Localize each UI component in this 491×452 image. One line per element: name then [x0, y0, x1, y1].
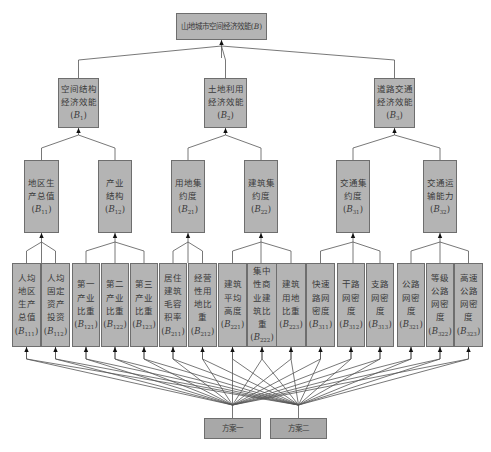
connector-branch — [86, 242, 115, 263]
connector-branch — [299, 347, 412, 405]
arrowhead-icon — [289, 347, 293, 352]
connector-branch — [115, 347, 233, 405]
connector-branch — [42, 242, 56, 263]
arrowhead-icon — [466, 347, 470, 352]
indicator-node-b323: 高速 公路 网密度(B323) — [454, 263, 483, 347]
arrowhead-icon — [24, 347, 28, 352]
subcriterion-node-b31: 交通集 约度(B31) — [336, 160, 370, 233]
arrowhead-icon — [84, 347, 88, 352]
connector-branch — [321, 242, 354, 263]
arrowhead-icon — [230, 347, 234, 352]
subcriterion-node-b22: 建筑集 约度(B22) — [244, 160, 278, 233]
arrowhead-icon — [186, 233, 190, 238]
connector-branch — [261, 242, 291, 263]
indicator-node-b311: 快速 路网 密度(B311) — [306, 263, 335, 347]
subcriterion-label: 建筑集 约度 — [248, 178, 275, 201]
connector-branch — [226, 135, 262, 160]
connector-branch — [222, 46, 395, 78]
arrowhead-icon — [438, 233, 442, 238]
arrowhead-icon — [171, 347, 175, 352]
criterion-label: 空间结构 经济效能 — [61, 84, 97, 107]
connector-branch — [299, 347, 381, 405]
indicator-node-b112: 人均 固定 资产 投资(B112) — [41, 263, 70, 347]
alternative-label: 方案一 — [222, 423, 243, 435]
arrowhead-icon — [438, 347, 442, 352]
connector-branch — [27, 242, 42, 263]
connector-branch — [291, 347, 299, 405]
indicator-node-b111: 人均 地区 生产 总值(B111) — [12, 263, 41, 347]
connector-branch — [79, 135, 116, 160]
arrowhead-icon — [318, 347, 322, 352]
criterion-node-b1: 空间结构 经济效能(B1) — [58, 78, 99, 128]
arrowhead-icon — [349, 347, 353, 352]
subcriterion-node-b12: 产业 结构(B12) — [98, 160, 132, 233]
indicator-node-b313: 支路 网密度(B313) — [366, 263, 394, 347]
subcriterion-label: 产业 结构 — [106, 178, 124, 201]
subcriterion-node-b21: 用地集 约度(B21) — [171, 160, 205, 233]
arrowhead-icon — [53, 347, 57, 352]
connector-branch — [233, 242, 262, 263]
indicator-node-b312: 干路 网密度(B312) — [337, 263, 365, 347]
subcriterion-node-b32: 交通运 输能力(B32) — [423, 160, 457, 233]
connector-branch — [188, 242, 203, 263]
connector-branch — [203, 347, 233, 405]
criterion-label: 道路交通 经济效能 — [377, 84, 413, 107]
criterion-node-b3: 道路交通 经济效能(B3) — [374, 78, 415, 128]
subcriterion-node-b11: 地区生 产总值(B11) — [24, 160, 59, 233]
connector-branch — [222, 46, 226, 78]
alternative-node-1: 方案一 — [204, 418, 261, 439]
subcriterion-label: 地区生 产总值 — [28, 178, 55, 201]
connector-branch — [411, 242, 440, 263]
indicator-node-b321: 公路 网密度(B321) — [397, 263, 425, 347]
arrowhead-icon — [392, 128, 396, 133]
arrowhead-icon — [200, 347, 204, 352]
arrowhead-icon — [219, 40, 223, 45]
arrowhead-icon — [260, 347, 264, 352]
subcriterion-label: 交通集 约度 — [340, 178, 367, 201]
alternative-label: 方案二 — [288, 423, 309, 435]
connector-branch — [353, 242, 380, 263]
arrowhead-icon — [142, 347, 146, 352]
alternative-node-2: 方案二 — [270, 418, 327, 439]
indicator-node-b122: 第二 产业 比重(B122) — [101, 263, 129, 347]
arrowhead-icon — [223, 128, 227, 133]
connector-branch — [42, 135, 79, 160]
arrowhead-icon — [113, 347, 117, 352]
goal-node: 山地城市空间经济效能(B) — [176, 13, 267, 40]
subcriterion-label: 用地集 约度 — [175, 178, 202, 201]
indicator-node-b121: 第一 产业 比重(B121) — [72, 263, 100, 347]
criterion-node-b2: 土地利用 经济效能(B2) — [204, 78, 247, 128]
connector-branch — [299, 347, 321, 405]
indicator-node-b123: 第三 产业 比重(B123) — [130, 263, 158, 347]
connector-branch — [173, 242, 188, 263]
arrowhead-icon — [378, 347, 382, 352]
connector-branch — [353, 135, 395, 160]
goal-code: B — [254, 22, 260, 31]
indicator-node-b212: 经营 性用 地比重(B212) — [188, 263, 217, 347]
connector-branch — [188, 135, 226, 160]
arrowhead-icon — [76, 128, 80, 133]
indicator-node-b223: 建筑 用地 比重(B223) — [276, 263, 306, 347]
indicator-node-b322: 等级 公路 网密度(B322) — [426, 263, 454, 347]
connector-branch — [395, 135, 441, 160]
arrowhead-icon — [409, 347, 413, 352]
indicator-node-b211: 居住 建筑 毛容 积率(B211) — [159, 263, 187, 347]
connector-branch — [440, 242, 469, 263]
arrowhead-icon — [113, 233, 117, 238]
arrowhead-icon — [259, 233, 263, 238]
indicator-node-b222: 集中 性商 业建 筑比重(B222) — [247, 263, 277, 347]
indicator-node-b221: 建筑 平均 高度(B221) — [218, 263, 247, 347]
connector-branch — [79, 46, 222, 78]
arrowhead-icon — [39, 233, 43, 238]
arrowhead-icon — [351, 233, 355, 238]
goal-label: 山地城市空间经济效能 — [181, 22, 251, 31]
subcriterion-label: 交通运 输能力 — [427, 178, 454, 201]
criterion-label: 土地利用 经济效能 — [208, 84, 244, 107]
connector-branch — [115, 242, 144, 263]
